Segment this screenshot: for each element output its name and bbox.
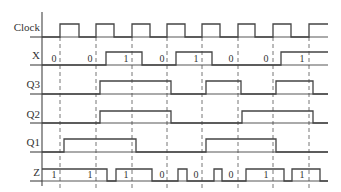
- value-label: 1: [124, 169, 129, 180]
- signal-row-clock: Clock: [14, 21, 328, 37]
- clock-edge-guides: [60, 37, 309, 190]
- value-label: 0: [264, 53, 269, 64]
- waveform: [42, 81, 328, 94]
- signal-label: X: [32, 49, 40, 61]
- value-label: 0: [52, 53, 57, 64]
- signal-label: Q1: [27, 136, 40, 148]
- waveform: [42, 169, 328, 181]
- value-label: 1: [52, 169, 57, 180]
- signal-label: Q3: [27, 78, 41, 90]
- value-label: 1: [124, 53, 129, 64]
- value-label: 1: [88, 169, 93, 180]
- timing-diagram: ClockX00101001Q3Q2Q1Z11100011: [0, 0, 341, 192]
- waveform: [42, 139, 328, 152]
- value-label: 1: [300, 53, 305, 64]
- signal-rows: ClockX00101001Q3Q2Q1Z11100011: [14, 21, 328, 181]
- signal-row-q1: Q1: [27, 136, 328, 152]
- waveform: [42, 111, 328, 123]
- value-label: 1: [194, 53, 199, 64]
- signal-row-q2: Q2: [27, 108, 328, 123]
- value-label: 0: [194, 169, 199, 180]
- waveform: [42, 24, 328, 37]
- value-label: 0: [229, 169, 234, 180]
- value-label: 1: [264, 169, 269, 180]
- value-label: 0: [160, 169, 165, 180]
- value-label: 0: [160, 53, 165, 64]
- signal-row-z: Z11100011: [30, 166, 328, 181]
- signal-label: Z: [33, 166, 40, 178]
- value-label: 0: [229, 53, 234, 64]
- value-label: 1: [300, 169, 305, 180]
- waveform: [42, 52, 328, 65]
- signal-row-q3: Q3: [27, 78, 328, 94]
- value-label: 0: [88, 53, 93, 64]
- signal-label: Clock: [14, 21, 41, 33]
- signal-label: Q2: [27, 108, 40, 120]
- signal-row-x: X00101001: [30, 49, 328, 65]
